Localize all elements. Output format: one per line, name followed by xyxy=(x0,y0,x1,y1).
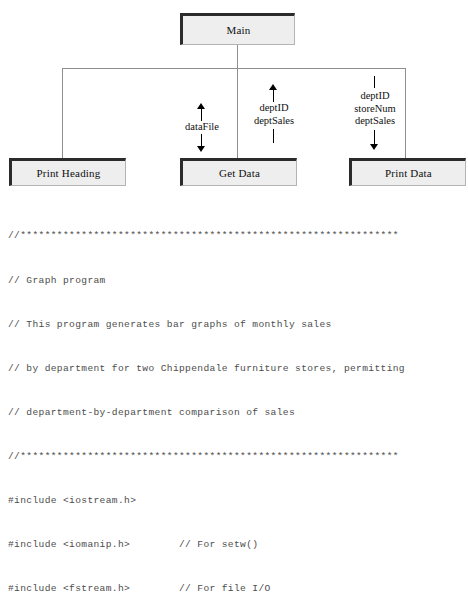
code-line: #include <iostream.h> xyxy=(8,494,405,509)
code-line: //**************************************… xyxy=(8,229,405,244)
module-label: Print Heading xyxy=(36,167,100,179)
down-arrow-icon-printdata-in xyxy=(370,130,379,150)
couple-label-printdata-in: deptID storeNum deptSales xyxy=(341,90,409,128)
module-box-print-heading[interactable]: Print Heading xyxy=(9,158,126,186)
module-box-print-data[interactable]: Print Data xyxy=(349,158,466,186)
couple-label-getdata-return: deptID deptSales xyxy=(243,102,305,127)
code-line: #include <iomanip.h> // For setw() xyxy=(8,538,405,553)
couple-name: deptID xyxy=(341,90,409,103)
code-line: // This program generates bar graphs of … xyxy=(8,318,405,333)
code-line: #include <fstream.h> // For file I/O xyxy=(8,582,405,595)
code-line: //**************************************… xyxy=(8,450,405,465)
couple-name: deptID xyxy=(243,102,305,115)
couple-name: deptSales xyxy=(243,115,305,128)
connector-left-drop xyxy=(62,68,63,160)
couple-name: dataFile xyxy=(172,121,232,134)
code-line: // by department for two Chippendale fur… xyxy=(8,362,405,377)
module-box-get-data[interactable]: Get Data xyxy=(180,158,297,186)
module-label: Get Data xyxy=(219,167,260,179)
code-line: // Graph program xyxy=(8,274,405,289)
connector-horizontal-bus xyxy=(62,68,406,69)
plain-line-printdata-in xyxy=(374,76,375,88)
source-code-block: //**************************************… xyxy=(8,200,405,595)
module-label: Main xyxy=(226,24,250,36)
structure-chart: Main dataFile deptID deptSales deptID st… xyxy=(0,0,468,192)
couple-name: deptSales xyxy=(341,115,409,128)
up-arrow-icon-getdata-return xyxy=(269,84,278,102)
down-arrow-icon-datafile xyxy=(197,134,206,152)
couple-name: storeNum xyxy=(341,103,409,116)
up-arrow-icon-datafile xyxy=(197,103,206,121)
module-box-main[interactable]: Main xyxy=(180,13,295,45)
connector-main-stem xyxy=(237,45,238,158)
couple-label-datafile: dataFile xyxy=(172,121,232,134)
module-label: Print Data xyxy=(385,167,432,179)
plain-line-getdata-return xyxy=(273,129,274,143)
code-line: // department-by-department comparison o… xyxy=(8,406,405,421)
